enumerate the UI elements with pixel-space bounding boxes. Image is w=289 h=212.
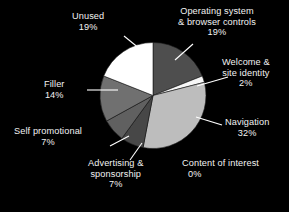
label-operating-system: Operating system & browser controls 19% [178,6,256,38]
label-advertising-sponsorship: Advertising & sponsorship 7% [88,158,143,190]
label-selfpromo-line1: Self promotional [14,126,82,136]
label-welcome-line1: Welcome & [222,57,270,67]
label-filler-line1: Filler [44,79,65,89]
label-filler: Filler 14% [44,79,65,100]
label-navigation-value: 32% [225,128,269,139]
leader-line-navigation [196,117,222,125]
label-unused-line1: Unused [72,11,104,21]
label-operating-system-value: 19% [178,27,256,38]
label-self-promotional: Self promotional 7% [14,126,82,147]
label-advertising-line2: sponsorship [90,169,141,179]
label-welcome-value: 2% [222,78,270,89]
label-advertising-value: 7% [88,179,143,190]
label-welcome-line2: site identity [222,68,269,78]
label-advertising-line1: Advertising & [88,158,143,168]
label-operating-system-line1: Operating system [180,6,254,16]
label-operating-system-line2: & browser controls [178,17,256,27]
label-selfpromo-value: 7% [14,137,82,148]
label-navigation-line1: Navigation [225,117,269,127]
pie-chart: Operating system & browser controls 19% … [0,0,289,212]
label-content-of-interest: Content of interest 0% [182,158,259,179]
pie-slices [100,43,206,149]
label-content-value: 0% [182,169,259,180]
label-filler-value: 14% [44,90,65,101]
label-unused: Unused 19% [72,11,104,32]
label-content-line1: Content of interest [182,158,259,168]
label-welcome-site-identity: Welcome & site identity 2% [222,57,270,89]
label-unused-value: 19% [72,22,104,33]
label-navigation: Navigation 32% [225,117,269,138]
